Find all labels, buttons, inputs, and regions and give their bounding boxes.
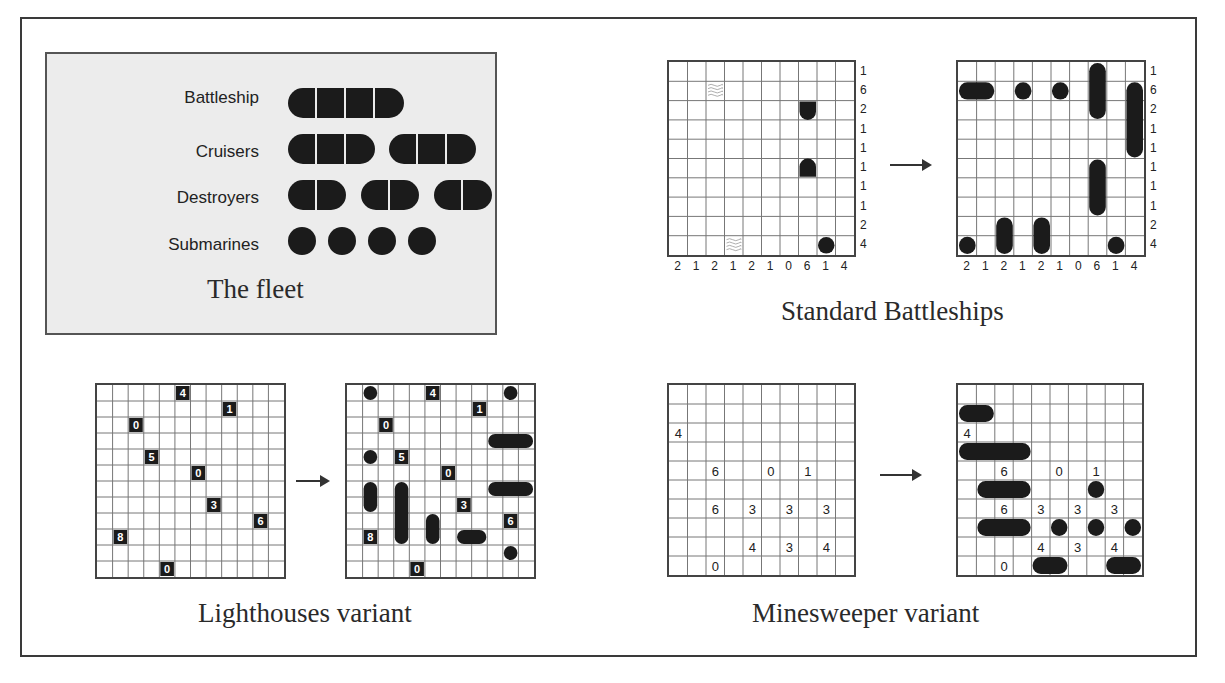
fleet-caption: The fleet [207,274,304,305]
ship-icon [488,482,533,496]
submarine-icon [1108,237,1125,254]
ship-icon-len-2 [288,180,346,210]
mine-clue: 1 [804,464,811,479]
ship-icon [457,530,486,544]
lighthouse-clue: 3 [211,499,217,511]
ship-icon [1126,82,1143,157]
ship-icon [1089,63,1106,119]
lighthouse-clue: 0 [383,419,389,431]
lighthouse-clue: 8 [367,531,373,543]
mine-clue: 6 [712,464,719,479]
water-icon [727,245,742,247]
mine-clue: 3 [749,502,756,517]
water-icon [727,242,742,244]
col-clue: 6 [1094,259,1101,273]
col-clue: 2 [1038,259,1045,273]
row-clue: 1 [1150,160,1157,174]
submarine-icon [1088,481,1104,498]
submarine-icon [1052,82,1069,99]
ship-icon [959,443,1031,460]
lighthouses-solution-grid: 410503680 [345,383,536,579]
row-clue: 1 [860,179,867,193]
row-clue: 1 [860,160,867,174]
ship-end-icon [800,159,817,177]
lighthouse-clue: 0 [133,419,139,431]
mine-clue: 4 [675,426,682,441]
standard-solution-grid [956,60,1146,257]
ship-icon [395,482,409,544]
mine-clue: 4 [749,540,756,555]
fleet-label-submarines: Submarines [168,235,259,255]
lighthouse-clue: 0 [195,467,201,479]
mine-clue: 3 [1111,502,1118,517]
lighthouse-clue: 6 [258,515,264,527]
row-clue: 1 [860,199,867,213]
lighthouse-clue: 0 [414,563,420,575]
lighthouse-clue: 8 [117,531,123,543]
ship-icon [1089,160,1106,216]
mine-clue: 4 [823,540,830,555]
row-clue: 1 [1150,179,1157,193]
lighthouse-clue: 6 [508,515,514,527]
lighthouse-clue: 0 [164,563,170,575]
ship-icon [1106,557,1141,574]
col-clue: 1 [693,259,700,273]
ship-icon-len-3 [389,134,476,164]
row-clue: 2 [1150,102,1157,116]
fleet-label-battleship: Battleship [184,88,259,108]
mine-clue: 1 [1092,464,1099,479]
row-clue: 4 [860,237,867,251]
row-clue: 6 [860,83,867,97]
ship-icon [959,82,994,99]
minesweeper-puzzle-grid: 460163334340 [667,383,856,577]
lighthouse-clue: 0 [445,467,451,479]
ship-icon [1033,557,1068,574]
mine-clue: 4 [1111,540,1118,555]
ship-icon-len-2 [361,180,419,210]
mine-clue: 4 [964,426,971,441]
mine-clue: 3 [1074,502,1081,517]
mine-clue: 0 [712,559,719,574]
lighthouse-clue: 5 [148,451,154,463]
standard-puzzle-grid [667,60,856,257]
row-clue: 1 [1150,64,1157,78]
fleet-label-destroyers: Destroyers [177,188,259,208]
col-clue: 4 [841,259,848,273]
ship-icon-len-4 [288,88,404,118]
submarine-icon [1088,519,1104,536]
water-icon [708,88,723,90]
ship-end-icon [800,102,817,120]
water-icon [708,94,723,96]
submarine-icon [504,546,518,560]
row-clue: 1 [1150,199,1157,213]
submarine-icon [1125,519,1141,536]
submarine-icon [364,450,378,464]
row-clue: 1 [860,141,867,155]
col-clue: 1 [822,259,829,273]
submarine-icon [368,227,396,255]
col-clue: 0 [1075,259,1082,273]
mine-clue: 0 [1000,559,1007,574]
lighthouse-clue: 3 [461,499,467,511]
arrow-right-icon [880,474,920,476]
lighthouses-caption: Lighthouses variant [198,598,412,629]
submarine-icon [288,227,316,255]
ship-icon [996,217,1013,254]
water-icon [708,91,723,93]
fleet-panel: Battleship Cruisers Destroyers Submarine… [45,52,497,335]
mine-clue: 3 [786,502,793,517]
water-icon [727,239,742,241]
ship-icon [977,481,1030,498]
ship-icon-len-3 [288,134,375,164]
mine-clue: 3 [1037,502,1044,517]
mine-clue: 3 [786,540,793,555]
mine-clue: 3 [1074,540,1081,555]
lighthouse-clue: 1 [476,403,482,415]
mine-clue: 6 [712,502,719,517]
col-clue: 1 [730,259,737,273]
submarine-icon [959,237,976,254]
row-clue: 1 [1150,122,1157,136]
col-clue: 2 [711,259,718,273]
mine-clue: 0 [1056,464,1063,479]
col-clue: 1 [1019,259,1026,273]
